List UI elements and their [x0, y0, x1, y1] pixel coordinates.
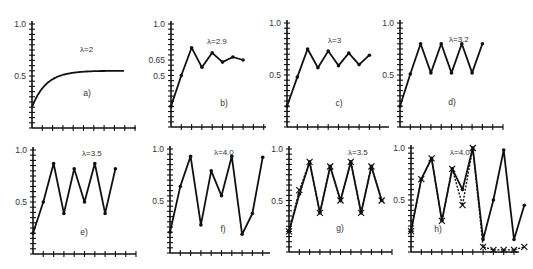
panel-h: 0.51.0λ=4.0h) [393, 143, 527, 255]
data-point [419, 42, 423, 46]
data-point [461, 188, 465, 192]
y-tick-label: 1.0 [269, 18, 281, 28]
data-line [33, 164, 115, 234]
panel-f: 0.51.0λ=4.0f) [152, 144, 270, 256]
data-point [316, 66, 320, 70]
panel-g: 0.51.0λ=3.5g) [271, 144, 392, 255]
panel-label: h) [434, 224, 442, 234]
data-point [169, 105, 173, 109]
data-point [210, 51, 214, 55]
data-line [170, 156, 263, 234]
data-point [221, 60, 225, 64]
data-point [180, 74, 184, 78]
data-point [439, 42, 443, 46]
y-tick-label: 0.5 [15, 197, 27, 207]
y-tick-label: 1.0 [393, 143, 405, 153]
data-point [285, 104, 289, 108]
y-tick-label: 0.5 [393, 195, 405, 205]
lambda-label: λ=3.5 [348, 148, 368, 157]
y-tick-label: 0.5 [269, 70, 281, 80]
data-point [512, 238, 516, 242]
panel-label: g) [336, 223, 344, 233]
y-tick-label: 0.5 [153, 71, 165, 81]
panel-b: 0.50.651.0λ=2.9b) [148, 19, 266, 130]
data-point [72, 167, 76, 171]
lambda-label: λ=3.2 [449, 35, 469, 44]
y-tick-label: 0.5 [382, 70, 394, 80]
data-point [306, 47, 310, 51]
data-point [450, 71, 454, 75]
panel-e: 0.51.0λ=3.5e) [15, 145, 136, 257]
data-point [460, 42, 464, 46]
data-point [481, 42, 485, 46]
data-point [189, 154, 193, 158]
data-point [199, 223, 203, 227]
lambda-label: λ=4.0 [450, 148, 470, 157]
panel-c: 0.51.0λ=3c) [269, 18, 389, 130]
y-tick-label: 0.5 [14, 71, 26, 81]
data-point [296, 75, 300, 79]
perturbed-data-line [411, 148, 524, 250]
data-point [42, 200, 46, 204]
perturbed-data-line [289, 162, 382, 232]
data-point [231, 55, 235, 59]
data-line [32, 71, 124, 107]
data-point [93, 162, 97, 166]
data-point [230, 154, 234, 158]
lambda-label: λ=2 [80, 45, 94, 54]
data-point [337, 64, 341, 68]
panel-label: e) [80, 227, 88, 237]
data-line [400, 44, 482, 106]
data-point [523, 203, 527, 207]
data-point [251, 212, 255, 216]
panel-label: a) [83, 88, 91, 98]
data-point [241, 58, 245, 62]
data-point [357, 63, 361, 67]
data-point [168, 230, 172, 234]
data-point [240, 232, 244, 236]
logistic-map-figure: 0.51.0λ=2a) 0.50.651.0λ=2.9b) 0.51.0λ=3c… [0, 0, 533, 269]
data-point [114, 167, 118, 171]
data-point [200, 65, 204, 69]
data-point [83, 200, 87, 204]
y-tick-label: 1.0 [382, 18, 394, 28]
panel-a: 0.51.0λ=2a) [14, 19, 136, 131]
y-tick-label: 1.0 [152, 144, 164, 154]
data-point [31, 231, 35, 235]
y-tick-label: 1.0 [153, 19, 165, 29]
lambda-label: λ=3.5 [82, 149, 102, 158]
data-point [209, 169, 213, 173]
panel-label: f) [220, 224, 225, 234]
data-line [289, 162, 382, 232]
data-point [470, 71, 474, 75]
y-tick-label: 1.0 [271, 144, 283, 154]
data-point [429, 71, 433, 75]
data-point [502, 148, 506, 152]
panel-d: 0.51.0λ=3.2d) [382, 18, 503, 130]
y-tick-label: 0.5 [271, 196, 283, 206]
panel-label: c) [335, 98, 342, 108]
lambda-label: λ=3 [328, 36, 342, 45]
data-point [368, 53, 372, 57]
y-tick-label: 0.65 [148, 55, 165, 65]
data-point [190, 46, 194, 50]
data-point [62, 212, 66, 216]
data-point [326, 49, 330, 53]
data-point [103, 212, 107, 216]
data-line [411, 148, 524, 240]
lambda-label: λ=2.9 [207, 37, 227, 46]
data-point [179, 185, 183, 189]
data-point [347, 51, 351, 55]
data-point [409, 72, 413, 76]
data-point [398, 104, 402, 108]
data-point [220, 194, 224, 198]
data-line [287, 49, 369, 106]
panel-label: d) [448, 97, 456, 107]
y-tick-label: 0.5 [152, 196, 164, 206]
data-point [52, 162, 56, 166]
panel-label: b) [220, 98, 228, 108]
data-point [261, 156, 265, 160]
y-tick-label: 1.0 [15, 145, 27, 155]
data-point [492, 198, 496, 202]
y-tick-label: 1.0 [14, 19, 26, 29]
